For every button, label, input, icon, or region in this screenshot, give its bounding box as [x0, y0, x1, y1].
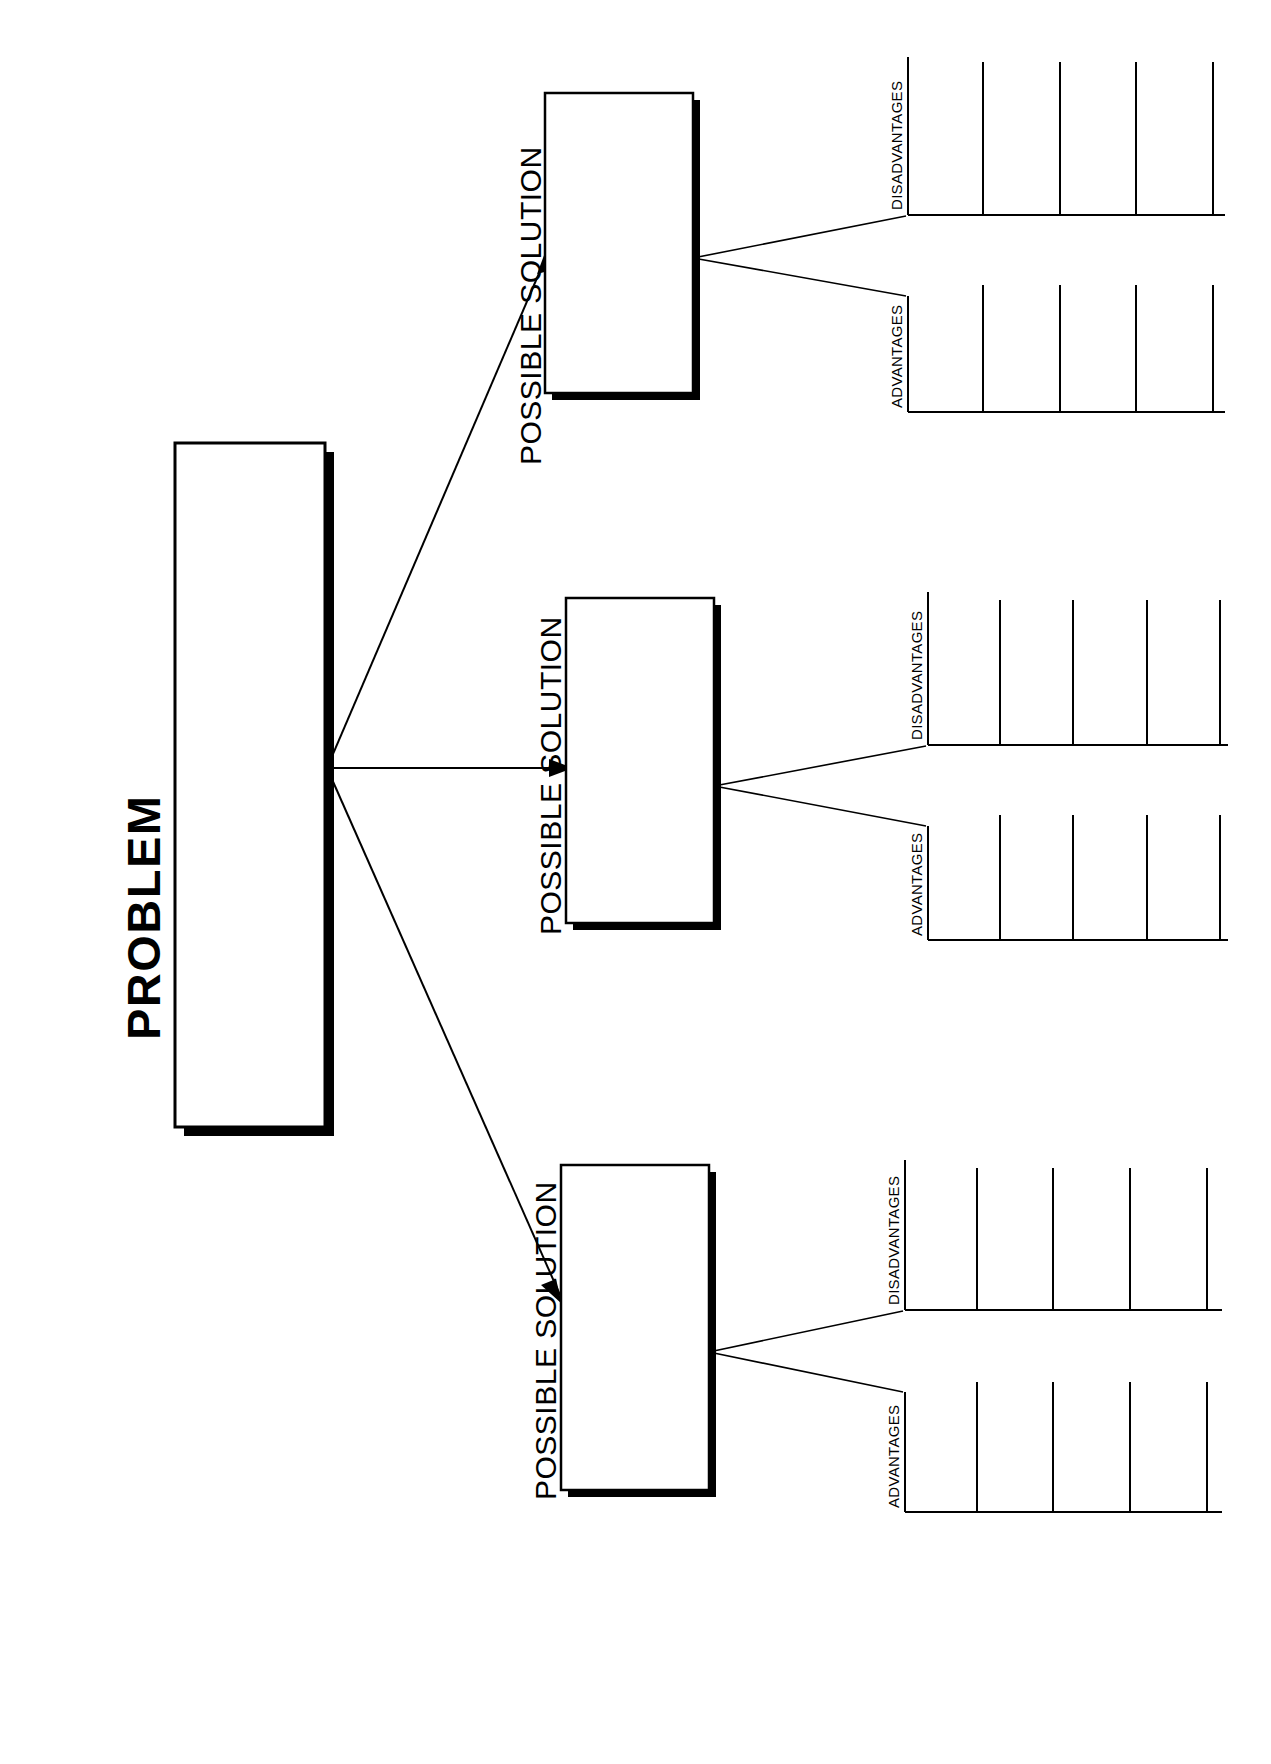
solution-1-bracket: [693, 216, 906, 296]
solution-1-advantages-area[interactable]: [908, 285, 1225, 412]
solution-2-text-area[interactable]: [566, 598, 714, 923]
solution-2-advantages-area[interactable]: [928, 815, 1228, 940]
solution-3-disadvantages-label: DISADVANTAGES: [886, 1176, 901, 1305]
solution-3-disadvantages-area[interactable]: [905, 1160, 1222, 1310]
solution-2-disadvantages-label: DISADVANTAGES: [909, 611, 924, 740]
solution-1-disadvantages-label: DISADVANTAGES: [889, 81, 904, 210]
solution-3-label: POSSIBLE SOLUTION: [531, 1181, 561, 1500]
solution-3-bracket: [709, 1311, 903, 1392]
solution-1-label: POSSIBLE SOLUTION: [516, 146, 546, 465]
solution-1-disadvantages-area[interactable]: [908, 57, 1225, 215]
solution-3-text-area[interactable]: [561, 1165, 709, 1490]
solution-3-advantages-label: ADVANTAGES: [886, 1405, 901, 1508]
solution-2-label: POSSIBLE SOLUTION: [536, 616, 566, 935]
worksheet-sheet: PROBLEM POSSIBLE SOLUTION POSSIBLE SOLUT…: [0, 0, 1271, 1764]
solution-1-advantages-label: ADVANTAGES: [889, 305, 904, 408]
solution-2-advantages-label: ADVANTAGES: [909, 833, 924, 936]
solution-1-text-area[interactable]: [545, 93, 693, 393]
solution-2-bracket: [714, 746, 926, 826]
solution-3-advantages-area[interactable]: [905, 1382, 1222, 1512]
arrow-to-solution-3: [327, 768, 560, 1295]
solution-2-disadvantages-area[interactable]: [928, 592, 1228, 745]
problem-text-area[interactable]: [175, 443, 325, 1127]
page-title: PROBLEM: [120, 795, 167, 1041]
